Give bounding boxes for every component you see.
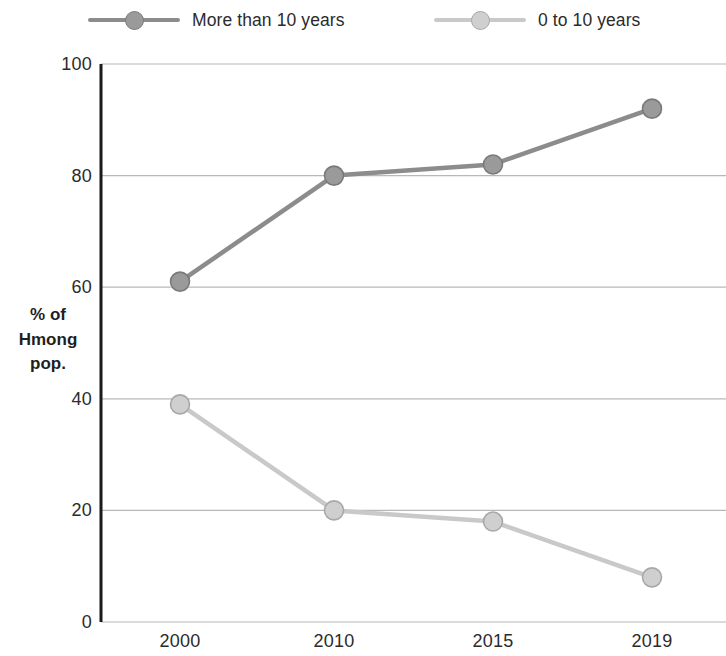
x-axis-tick-label: 2019	[632, 631, 673, 652]
data-point[interactable]	[484, 155, 503, 174]
data-point[interactable]	[325, 501, 344, 520]
data-point[interactable]	[484, 512, 503, 531]
plot-area: 020406080100 % ofHmongpop. 2000201020152…	[0, 0, 726, 656]
data-point[interactable]	[643, 568, 662, 587]
data-point[interactable]	[171, 272, 190, 291]
y-axis-tick-label: 0	[8, 612, 92, 633]
x-axis-tick-label: 2010	[314, 631, 355, 652]
data-point[interactable]	[643, 99, 662, 118]
data-point[interactable]	[325, 166, 344, 185]
x-axis-tick-label: 2000	[160, 631, 201, 652]
line-chart: More than 10 years 0 to 10 years 0204060…	[0, 0, 726, 656]
y-axis-title: % ofHmongpop.	[4, 303, 92, 377]
data-point[interactable]	[171, 395, 190, 414]
series-line-1	[180, 404, 652, 577]
y-axis-tick-label: 40	[8, 388, 92, 409]
y-axis-tick-label: 60	[8, 277, 92, 298]
y-axis-title-line: pop.	[4, 352, 92, 377]
series-line-0	[180, 109, 652, 282]
plot-canvas	[0, 0, 726, 656]
y-axis-tick-label: 100	[8, 54, 92, 75]
y-axis-tick-label: 80	[8, 165, 92, 186]
y-axis-title-line: Hmong	[4, 328, 92, 353]
y-axis-title-line: % of	[4, 303, 92, 328]
y-axis-tick-label: 20	[8, 500, 92, 521]
x-axis-tick-label: 2015	[473, 631, 514, 652]
